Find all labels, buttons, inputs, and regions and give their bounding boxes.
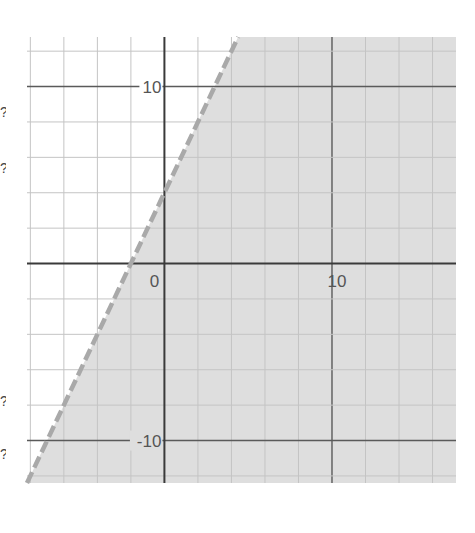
cropped-text-fragment: ? [0,393,6,409]
inequality-graph: 01010-10 [0,0,475,533]
shaded-area [27,37,456,483]
y-tick-label: -10 [137,432,162,451]
cropped-text-fragment: ? [0,104,6,120]
cropped-text-fragment: ? [0,446,6,462]
x-tick-label: 10 [328,272,347,291]
shaded-region [27,37,456,483]
y-tick-label: 10 [142,78,161,97]
cropped-text-fragment: ? [0,160,6,176]
x-tick-label-origin: 0 [150,272,159,291]
